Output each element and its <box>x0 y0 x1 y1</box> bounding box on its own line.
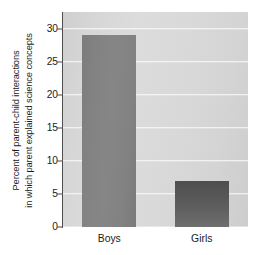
y-axis-tick-label-10: 10 <box>38 156 58 166</box>
x-axis-tick-label-girls: Girls <box>191 232 212 245</box>
bar-girls <box>175 181 229 227</box>
bar-chart-figure: Percent of parent-child interactions in … <box>0 0 254 255</box>
y-axis-tick-label-5: 5 <box>38 189 58 199</box>
gridline-30 <box>63 28 248 30</box>
y-axis-tick-label-15: 15 <box>38 123 58 133</box>
y-axis-tick-label-group: 051015202530 <box>38 0 58 255</box>
y-axis-tick-label-25: 25 <box>38 57 58 67</box>
y-axis-tick-label-0: 0 <box>38 222 58 232</box>
x-axis-tick-label-boys: Boys <box>98 232 121 245</box>
x-axis-tick-label-group: BoysGirls <box>63 232 248 250</box>
y-axis-title-line-2: in which parent explained science concep… <box>22 33 35 208</box>
y-axis-tick-label-30: 30 <box>38 24 58 34</box>
bar-boys <box>82 35 136 227</box>
y-axis-tick-label-20: 20 <box>38 90 58 100</box>
y-axis-title-line-1: Percent of parent-child interactions <box>10 33 23 208</box>
plot-area <box>63 12 248 227</box>
